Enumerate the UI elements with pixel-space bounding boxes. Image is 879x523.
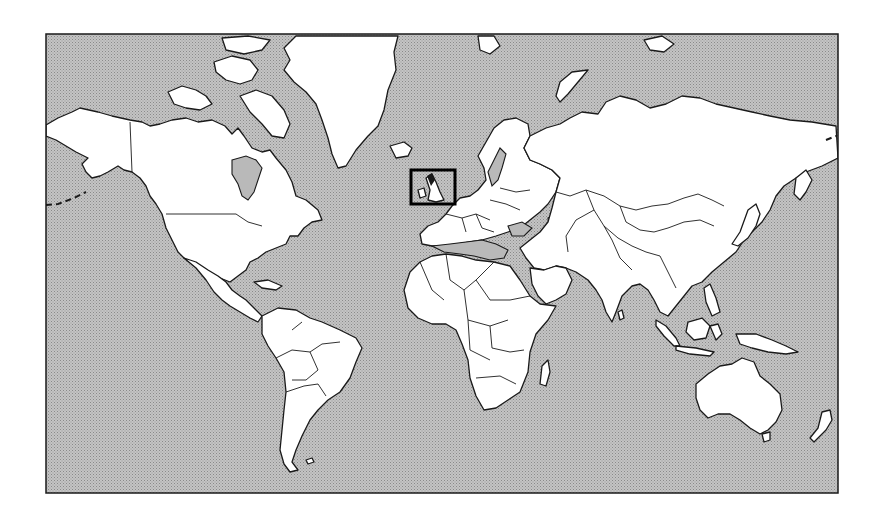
world-map-svg [0,0,879,523]
world-map-figure: British Isles [0,0,879,523]
ireland [418,188,426,198]
tasmania [762,432,770,442]
